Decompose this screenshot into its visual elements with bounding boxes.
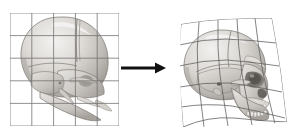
adult-orbit-highlight: [250, 74, 255, 78]
tooth-lower-4: [257, 112, 260, 117]
tooth-lower-3: [254, 112, 257, 117]
figure-canvas: [0, 0, 296, 135]
skull-transformation-figure: Skull transformation grid figure Infant …: [0, 0, 296, 135]
tooth-lower-6: [264, 110, 267, 114]
infant-foramen: [58, 82, 61, 84]
tooth-lower-2: [250, 112, 253, 117]
